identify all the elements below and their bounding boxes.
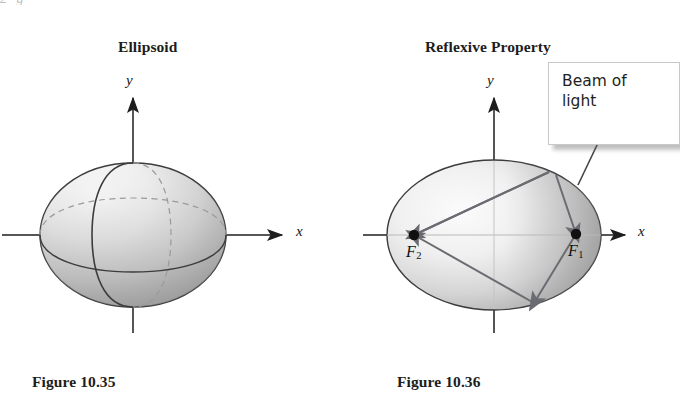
- focus-label-f1-subscript: 1: [578, 249, 584, 260]
- focus-label-f1-letter: F: [568, 242, 578, 259]
- figure-ellipsoid-panel: Ellipsoid: [0, 0, 340, 415]
- focus-label-f1: F1: [568, 242, 584, 260]
- callout-beam-of-light-text: Beam of light: [562, 71, 627, 111]
- focus-label-f2-subscript: 2: [416, 250, 422, 261]
- figure-caption-10-35: Figure 10.35: [32, 373, 116, 391]
- x-axis-label-reflexive: x: [638, 223, 645, 240]
- ellipsoid-drawing: [0, 0, 340, 415]
- focus-label-f2: F2: [406, 243, 422, 261]
- y-axis-label-reflexive: y: [487, 72, 494, 89]
- figure-caption-10-36: Figure 10.36: [397, 373, 481, 391]
- x-axis-label-ellipsoid: x: [296, 223, 303, 240]
- callout-beam-of-light: Beam of light: [548, 62, 680, 145]
- callout-leader-line: [578, 143, 598, 185]
- focus-point-f1: [571, 229, 581, 239]
- focus-label-f2-letter: F: [406, 243, 416, 260]
- figure-reflexive-panel: Reflexive Property: [335, 0, 675, 415]
- y-axis-label-ellipsoid: y: [126, 72, 133, 89]
- focus-point-f2: [409, 230, 419, 240]
